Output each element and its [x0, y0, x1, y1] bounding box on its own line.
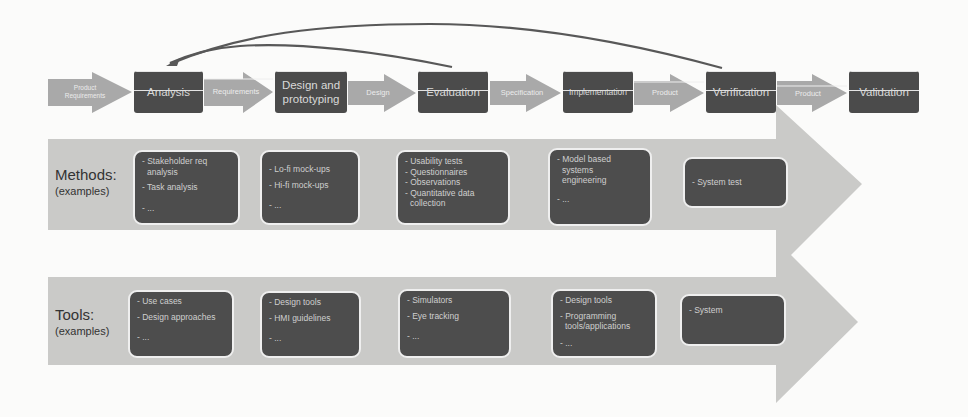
tools-card-design: - Design tools - HMI guidelines - ... — [260, 291, 361, 358]
methods-subtitle: (examples) — [55, 185, 117, 197]
process-step-analysis: Analysis — [134, 71, 203, 113]
methods-row-label: Methods: (examples) — [55, 166, 117, 197]
tools-card-evaluation: - Simulators - Eye tracking - ... — [398, 289, 511, 358]
step-label: Evaluation — [426, 86, 480, 99]
process-step-verification: Verification — [706, 71, 776, 113]
process-step-evaluation: Evaluation — [418, 71, 488, 113]
methods-card-evaluation: - Usability tests - Questionnaires - Obs… — [396, 150, 510, 225]
tools-row-label: Tools: (examples) — [55, 306, 109, 337]
connector-label-product-2: Product — [779, 86, 837, 102]
methods-card-verification: - System test — [683, 157, 788, 208]
step-label: Implementation — [569, 86, 627, 99]
connector-label-product-requirements: Product Requirements — [50, 80, 120, 104]
tools-card-analysis: - Use cases - Design approaches - ... — [128, 290, 234, 358]
connector-label-requirements: Requirements — [204, 84, 268, 100]
process-step-design-prototyping: Design and prototyping — [275, 71, 347, 113]
step-label: Design and prototyping — [280, 78, 342, 106]
process-step-implementation: Implementation — [563, 71, 633, 113]
methods-title: Methods: — [55, 166, 117, 183]
tools-card-implementation: - Design tools - Programming tools/appli… — [551, 289, 657, 358]
connector-label-product-1: Product — [636, 85, 694, 101]
methods-card-analysis: - Stakeholder req analysis - Task analys… — [133, 150, 240, 225]
tools-subtitle: (examples) — [55, 325, 109, 337]
connector-label-specification: Specification — [490, 85, 554, 101]
methods-card-implementation: - Model based systems engineering - ... — [548, 148, 652, 226]
connector-label-design: Design — [350, 85, 406, 101]
methods-card-design: - Lo-fi mock-ups - Hi-fi mock-ups - ... — [260, 150, 360, 225]
step-label: Analysis — [147, 86, 190, 99]
step-label: Validation — [859, 86, 909, 99]
step-label: Verification — [713, 86, 769, 99]
process-step-validation: Validation — [849, 71, 919, 113]
tools-title: Tools: — [55, 306, 109, 323]
tools-card-verification: - System — [680, 294, 786, 346]
